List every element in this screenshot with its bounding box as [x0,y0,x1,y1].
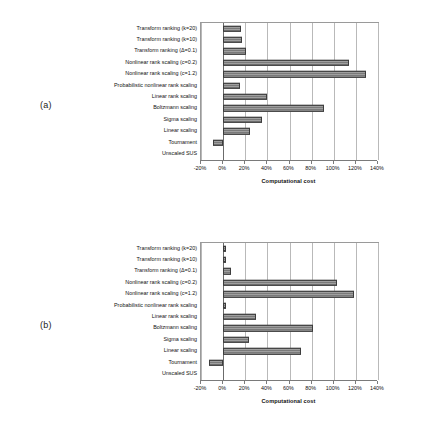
x-tick-label: 80% [305,166,316,171]
bar-row: Sigma scaling [201,334,378,345]
bar [223,302,226,308]
category-label: Linear rank scaling [152,314,197,319]
category-label: Linear scaling [164,129,197,134]
bar-row: Transform ranking (Δ=0.1) [201,266,378,277]
bar-chart-a: Transform ranking (k=20)Transform rankin… [95,22,405,184]
x-tick [266,161,267,164]
bar [223,71,366,77]
x-tick [222,381,223,384]
bar [223,94,267,100]
bar [223,25,241,31]
bar-row: Tournament [201,137,378,148]
bar [223,268,231,274]
category-label: Transform ranking (Δ=0.1) [134,269,197,274]
plot-area-a: Transform ranking (k=20)Transform rankin… [200,22,379,160]
x-tick [289,161,290,164]
bar-row: Probabilistic nonlinear rank scaling [201,80,378,91]
x-tick [333,381,334,384]
category-label: Transform ranking (k=10) [137,257,197,262]
x-axis-tick-labels-b: -20%0%20%40%60%80%100%120%140% [200,385,377,395]
x-tick-label: 0% [218,166,226,171]
category-label: Transform ranking (k=20) [137,246,197,251]
category-label: Sigma scaling [163,337,197,342]
bar [223,82,240,88]
category-label: Boltzmann scaling [153,326,197,331]
x-tick-label: 40% [261,386,272,391]
gridline-140 [378,243,379,380]
x-tick-label: 20% [239,166,250,171]
bar [223,117,262,123]
bar [223,37,242,43]
category-label: Probabilistic nonlinear rank scaling [114,83,197,88]
x-tick-label: 140% [370,386,384,391]
bar [223,128,250,134]
x-tick [355,161,356,164]
bar [223,348,300,354]
bar [223,291,354,297]
plot-area-b: Transform ranking (k=20)Transform rankin… [200,242,379,380]
x-tick [289,381,290,384]
bar-row: Transform ranking (Δ=0.1) [201,46,378,57]
bar-row: Boltzmann scaling [201,103,378,114]
category-label: Unscaled SUS [162,371,197,376]
bar-row: Unscaled SUS [201,148,378,159]
bar-row: Linear rank scaling [201,311,378,322]
bar-row: Boltzmann scaling [201,323,378,334]
bar-row: Probabilistic nonlinear rank scaling [201,300,378,311]
category-label: Sigma scaling [163,117,197,122]
x-axis-title-a: Computational cost [200,178,377,184]
bar-row: Transform ranking (k=10) [201,254,378,265]
bar-row: Transform ranking (k=10) [201,34,378,45]
bar [209,359,223,365]
category-label: Boltzmann scaling [153,106,197,111]
x-tick-label: 140% [370,166,384,171]
x-axis-title-b: Computational cost [200,398,377,404]
x-tick [311,381,312,384]
bar [223,105,324,111]
x-tick-label: 0% [218,386,226,391]
panel-label-b: (b) [40,320,52,330]
bar-row: Nonlinear rank scaling (c=1.2) [201,289,378,300]
figure-b: (b) Transform ranking (k=20)Transform ra… [0,228,430,428]
category-label: Probabilistic nonlinear rank scaling [114,303,197,308]
bar-row: Nonlinear rank scaling (c=0.2) [201,277,378,288]
bar-chart-b: Transform ranking (k=20)Transform rankin… [95,242,405,404]
x-tick [377,161,378,164]
figure-a: (a) Transform ranking (k=20)Transform ra… [0,8,430,213]
bar [223,280,337,286]
x-tick-label: 100% [326,166,340,171]
category-label: Nonlinear rank scaling (c=0.2) [125,280,197,285]
bar-row: Linear scaling [201,346,378,357]
category-label: Transform ranking (k=20) [137,26,197,31]
bar [223,337,248,343]
x-tick [355,381,356,384]
category-label: Nonlinear rank scaling (c=1.2) [125,72,197,77]
x-tick-label: -20% [194,166,207,171]
x-tick-label: 120% [348,166,362,171]
x-tick [333,161,334,164]
bar-row: Nonlinear rank scaling (c=1.2) [201,69,378,80]
bar [223,325,313,331]
bar [223,314,256,320]
x-tick [200,161,201,164]
x-tick [244,381,245,384]
x-tick [377,381,378,384]
gridline-140 [378,23,379,160]
bar [223,48,246,54]
category-label: Unscaled SUS [162,151,197,156]
x-tick [222,161,223,164]
category-label: Transform ranking (k=10) [137,37,197,42]
bar-row: Tournament [201,357,378,368]
x-tick [200,381,201,384]
x-tick-label: 40% [261,166,272,171]
category-label: Linear rank scaling [152,94,197,99]
x-tick-label: 60% [283,386,294,391]
category-label: Nonlinear rank scaling (c=0.2) [125,60,197,65]
bar-row: Sigma scaling [201,114,378,125]
bar-row: Transform ranking (k=20) [201,23,378,34]
category-label: Linear scaling [164,349,197,354]
category-label: Transform ranking (Δ=0.1) [134,49,197,54]
bar [223,60,349,66]
bar [223,257,226,263]
bar-row: Unscaled SUS [201,368,378,379]
